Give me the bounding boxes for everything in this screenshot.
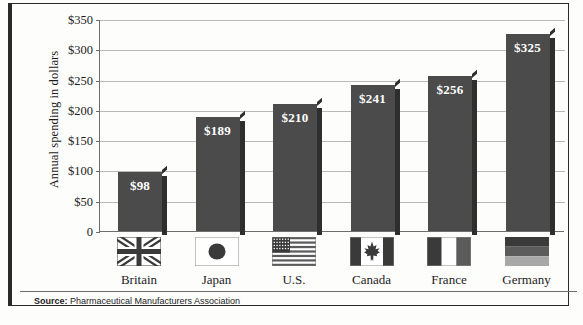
x-axis-label-germany: Germany xyxy=(479,272,575,288)
bar-value-label: $256 xyxy=(428,82,472,98)
flag-japan-icon xyxy=(195,237,239,266)
bar-body: $98 xyxy=(118,172,162,231)
chart-figure: Annual spending in dollars 0$50$100$150$… xyxy=(0,0,583,325)
bar-side-shadow xyxy=(240,121,245,235)
bar-value-label: $189 xyxy=(196,123,240,139)
flag-canada-icon xyxy=(350,237,394,266)
y-axis-tick-label: $50 xyxy=(74,194,93,209)
source-label: Source: xyxy=(34,296,68,306)
gridline xyxy=(100,202,565,203)
bar-body: $210 xyxy=(273,104,317,231)
bar-side-shadow xyxy=(550,38,555,235)
gridline xyxy=(100,141,565,142)
y-axis-tick-label: $350 xyxy=(68,13,93,28)
bar-side-shadow xyxy=(317,108,322,235)
bar-value-label: $98 xyxy=(118,178,162,194)
bar-value-label: $210 xyxy=(273,110,317,126)
bar-top-shadow xyxy=(472,70,477,78)
y-axis-tick-label: $100 xyxy=(68,164,93,179)
y-axis-title: Annual spending in dollars xyxy=(47,30,62,210)
y-axis-tickmark xyxy=(96,232,100,233)
source-divider xyxy=(20,291,577,292)
bar-body: $189 xyxy=(196,117,240,231)
bar-japan: $189 xyxy=(196,113,245,231)
y-axis-tick-label: $250 xyxy=(68,73,93,88)
y-axis-tick-label: $200 xyxy=(68,103,93,118)
y-axis-tick-label: 0 xyxy=(87,225,93,240)
y-axis-tick-label: $150 xyxy=(68,134,93,149)
y-axis-tickmark xyxy=(96,171,100,172)
bar-us: $210 xyxy=(273,100,322,231)
bar-side-shadow xyxy=(162,176,167,235)
plot-area: 0$50$100$150$200$250$300$350 $98$189$210… xyxy=(99,20,564,232)
bar-side-shadow xyxy=(395,89,400,235)
flag-britain-icon xyxy=(117,237,161,266)
bar-top-shadow xyxy=(550,28,555,36)
gridline xyxy=(100,171,565,172)
bar-top-shadow xyxy=(317,98,322,106)
y-axis-tickmark xyxy=(96,50,100,51)
flag-usa-icon xyxy=(272,237,316,266)
bar-body: $325 xyxy=(506,34,550,231)
bar-germany: $325 xyxy=(506,30,555,231)
y-axis-tickmark xyxy=(96,81,100,82)
bar-canada: $241 xyxy=(351,81,400,231)
y-axis-tickmark xyxy=(96,20,100,21)
gridline xyxy=(100,81,565,82)
bar-body: $256 xyxy=(428,76,472,231)
bar-side-shadow xyxy=(472,80,477,235)
bar-top-shadow xyxy=(162,165,167,173)
source-line: Source: Pharmaceutical Manufacturers Ass… xyxy=(34,296,240,306)
gridline xyxy=(100,50,565,51)
bar-value-label: $241 xyxy=(351,91,395,107)
bar-body: $241 xyxy=(351,85,395,231)
bar-value-label: $325 xyxy=(506,40,550,56)
flag-germany-icon xyxy=(505,237,549,266)
bar-top-shadow xyxy=(395,79,400,87)
y-axis-tickmark xyxy=(96,141,100,142)
bar-top-shadow xyxy=(240,110,245,118)
bar-britain: $98 xyxy=(118,168,167,231)
flag-france-icon xyxy=(427,237,471,266)
y-axis-tickmark xyxy=(96,202,100,203)
gridline xyxy=(100,20,565,21)
gridline xyxy=(100,111,565,112)
y-axis-tickmark xyxy=(96,111,100,112)
y-axis-tick-label: $300 xyxy=(68,43,93,58)
chart-frame: Annual spending in dollars 0$50$100$150$… xyxy=(8,3,569,306)
source-text: Pharmaceutical Manufacturers Association xyxy=(70,296,240,306)
bar-france: $256 xyxy=(428,72,477,231)
